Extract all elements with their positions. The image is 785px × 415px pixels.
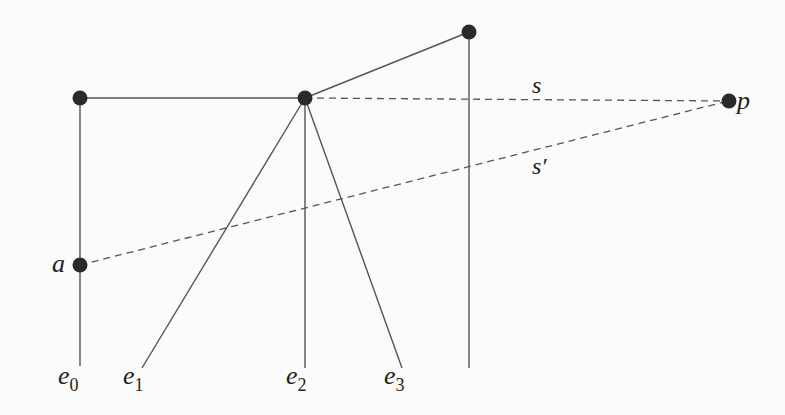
label-e0: e0 <box>58 361 79 395</box>
node-topleft <box>73 91 88 106</box>
label-e1: e1 <box>123 361 144 395</box>
edge-e3 <box>305 98 402 368</box>
label-s-prime: s′ <box>532 153 547 179</box>
label-e2-sub: 2 <box>298 375 307 395</box>
label-e1-sub: 1 <box>135 375 144 395</box>
node-a <box>73 258 88 273</box>
label-e2: e2 <box>286 361 307 395</box>
edge-center-top <box>305 32 469 98</box>
node-p <box>722 94 737 109</box>
label-e3-base: e <box>384 361 396 390</box>
dashed-segment-s <box>305 98 728 101</box>
dashed-segment-s-prime <box>80 101 728 265</box>
label-s: s <box>532 72 541 98</box>
diagram-canvas: a p s s′ e0 e1 e2 e3 <box>0 0 785 415</box>
label-e2-base: e <box>286 361 298 390</box>
label-e0-base: e <box>58 361 70 390</box>
label-e3-sub: 3 <box>396 375 405 395</box>
edge-e1 <box>142 98 305 368</box>
node-center <box>298 91 313 106</box>
label-e1-base: e <box>123 361 135 390</box>
label-a: a <box>52 249 65 278</box>
node-top <box>462 25 477 40</box>
label-e0-sub: 0 <box>70 375 79 395</box>
label-p: p <box>735 86 750 115</box>
